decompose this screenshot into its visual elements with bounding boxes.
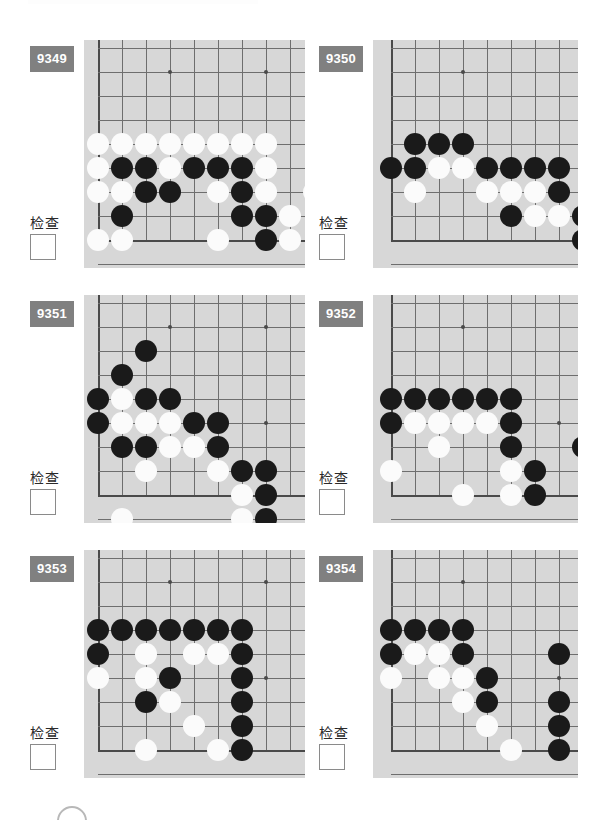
white-stone[interactable]: [159, 436, 181, 458]
white-stone[interactable]: [452, 484, 474, 506]
black-stone[interactable]: [380, 643, 402, 665]
white-stone[interactable]: [183, 133, 205, 155]
black-stone[interactable]: [159, 388, 181, 410]
check-checkbox[interactable]: [30, 234, 56, 260]
white-stone[interactable]: [452, 157, 474, 179]
black-stone[interactable]: [548, 181, 570, 203]
white-stone[interactable]: [111, 229, 133, 251]
black-stone[interactable]: [548, 157, 570, 179]
black-stone[interactable]: [87, 388, 109, 410]
white-stone[interactable]: [207, 229, 229, 251]
white-stone[interactable]: [111, 133, 133, 155]
white-stone[interactable]: [231, 484, 253, 506]
white-stone[interactable]: [255, 181, 277, 203]
black-stone[interactable]: [428, 133, 450, 155]
black-stone[interactable]: [159, 619, 181, 641]
black-stone[interactable]: [476, 691, 498, 713]
black-stone[interactable]: [231, 460, 253, 482]
black-stone[interactable]: [207, 619, 229, 641]
go-board[interactable]: [84, 40, 305, 268]
black-stone[interactable]: [524, 157, 546, 179]
white-stone[interactable]: [159, 412, 181, 434]
white-stone[interactable]: [183, 715, 205, 737]
white-stone[interactable]: [135, 133, 157, 155]
black-stone[interactable]: [476, 667, 498, 689]
white-stone[interactable]: [255, 157, 277, 179]
white-stone[interactable]: [231, 133, 253, 155]
go-board[interactable]: [373, 295, 578, 523]
black-stone[interactable]: [231, 619, 253, 641]
check-checkbox[interactable]: [30, 489, 56, 515]
black-stone[interactable]: [524, 460, 546, 482]
white-stone[interactable]: [380, 460, 402, 482]
black-stone[interactable]: [183, 157, 205, 179]
white-stone[interactable]: [87, 133, 109, 155]
black-stone[interactable]: [111, 157, 133, 179]
black-stone[interactable]: [452, 643, 474, 665]
black-stone[interactable]: [255, 460, 277, 482]
black-stone[interactable]: [87, 412, 109, 434]
white-stone[interactable]: [500, 181, 522, 203]
white-stone[interactable]: [231, 508, 253, 523]
white-stone[interactable]: [207, 643, 229, 665]
black-stone[interactable]: [255, 205, 277, 227]
black-stone[interactable]: [207, 412, 229, 434]
black-stone[interactable]: [428, 388, 450, 410]
black-stone[interactable]: [183, 619, 205, 641]
white-stone[interactable]: [279, 205, 301, 227]
black-stone[interactable]: [404, 388, 426, 410]
white-stone[interactable]: [159, 157, 181, 179]
black-stone[interactable]: [231, 715, 253, 737]
black-stone[interactable]: [476, 157, 498, 179]
black-stone[interactable]: [404, 619, 426, 641]
black-stone[interactable]: [135, 388, 157, 410]
black-stone[interactable]: [500, 157, 522, 179]
black-stone[interactable]: [255, 484, 277, 506]
black-stone[interactable]: [159, 667, 181, 689]
black-stone[interactable]: [231, 691, 253, 713]
white-stone[interactable]: [428, 667, 450, 689]
white-stone[interactable]: [111, 412, 133, 434]
black-stone[interactable]: [404, 157, 426, 179]
black-stone[interactable]: [207, 436, 229, 458]
white-stone[interactable]: [159, 691, 181, 713]
white-stone[interactable]: [135, 460, 157, 482]
white-stone[interactable]: [380, 667, 402, 689]
black-stone[interactable]: [231, 643, 253, 665]
white-stone[interactable]: [428, 436, 450, 458]
black-stone[interactable]: [255, 229, 277, 251]
white-stone[interactable]: [87, 157, 109, 179]
check-checkbox[interactable]: [30, 744, 56, 770]
white-stone[interactable]: [548, 205, 570, 227]
white-stone[interactable]: [452, 691, 474, 713]
black-stone[interactable]: [87, 619, 109, 641]
check-checkbox[interactable]: [319, 744, 345, 770]
check-checkbox[interactable]: [319, 234, 345, 260]
white-stone[interactable]: [404, 181, 426, 203]
black-stone[interactable]: [404, 133, 426, 155]
black-stone[interactable]: [207, 157, 229, 179]
black-stone[interactable]: [476, 388, 498, 410]
black-stone[interactable]: [87, 643, 109, 665]
go-board[interactable]: [373, 550, 578, 778]
black-stone[interactable]: [428, 619, 450, 641]
white-stone[interactable]: [404, 643, 426, 665]
white-stone[interactable]: [207, 133, 229, 155]
white-stone[interactable]: [500, 739, 522, 761]
white-stone[interactable]: [500, 460, 522, 482]
black-stone[interactable]: [548, 643, 570, 665]
white-stone[interactable]: [111, 181, 133, 203]
white-stone[interactable]: [207, 460, 229, 482]
white-stone[interactable]: [452, 412, 474, 434]
white-stone[interactable]: [111, 388, 133, 410]
white-stone[interactable]: [183, 643, 205, 665]
black-stone[interactable]: [183, 412, 205, 434]
check-checkbox[interactable]: [319, 489, 345, 515]
black-stone[interactable]: [135, 340, 157, 362]
white-stone[interactable]: [183, 436, 205, 458]
black-stone[interactable]: [231, 181, 253, 203]
white-stone[interactable]: [500, 484, 522, 506]
black-stone[interactable]: [231, 205, 253, 227]
white-stone[interactable]: [428, 643, 450, 665]
black-stone[interactable]: [452, 619, 474, 641]
